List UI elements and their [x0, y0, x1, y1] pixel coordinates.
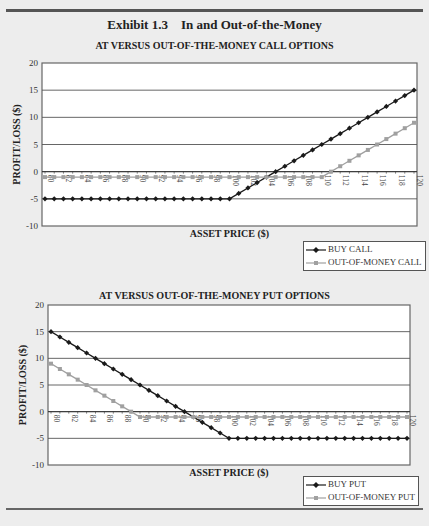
y-tick-label: 20 — [35, 300, 45, 310]
y-axis-label: PROFIT/LOSS ($) — [17, 345, 29, 425]
x-tick-label: 82 — [70, 415, 79, 423]
x-tick-label: 86 — [105, 415, 114, 423]
x-tick-label: 80 — [52, 415, 61, 423]
put-chart-legend: BUY PUT OUT-OF-MONEY PUT — [303, 476, 419, 506]
y-tick-label: 10 — [35, 353, 45, 363]
bottom-rule — [6, 508, 423, 510]
square-marker-icon — [306, 494, 326, 502]
diamond-marker-icon — [306, 481, 326, 489]
put-options-chart: -10-505101520808284868890929496981001021… — [0, 0, 429, 526]
x-axis-label: ASSET PRICE ($) — [189, 467, 268, 479]
y-tick-label: 5 — [40, 380, 45, 390]
legend-item-buy-put: BUY PUT — [306, 478, 415, 491]
x-tick-label: 88 — [123, 415, 132, 423]
x-tick-label: 84 — [88, 415, 97, 423]
y-tick-label: -5 — [37, 433, 45, 443]
y-tick-label: 15 — [35, 327, 45, 337]
legend-label: OUT-OF-MONEY PUT — [328, 491, 415, 504]
x-tick-label: 120 — [408, 415, 417, 427]
y-tick-label: 0 — [40, 407, 45, 417]
legend-item-out-of-money-put: OUT-OF-MONEY PUT — [306, 491, 415, 504]
legend-label: BUY PUT — [328, 478, 366, 491]
y-tick-label: -10 — [32, 460, 44, 470]
